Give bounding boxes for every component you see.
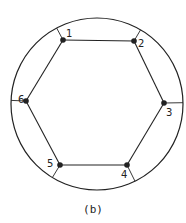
vertex-dot-2 — [131, 38, 137, 44]
vertex-dot-3 — [161, 100, 167, 106]
radial-ticks — [11, 28, 183, 181]
vertex-dot-4 — [124, 162, 130, 168]
edge-3-4 — [127, 103, 164, 165]
vertex-label-6: 6 — [18, 94, 24, 105]
edge-2-3 — [134, 41, 164, 103]
vertex-label-2: 2 — [138, 38, 144, 49]
vertex-dot-1 — [60, 37, 66, 43]
vertex-label-5: 5 — [47, 158, 53, 169]
hexagon-edges — [26, 40, 164, 165]
outer-circle — [11, 18, 183, 190]
edge-5-6 — [26, 101, 60, 165]
edge-6-1 — [26, 40, 63, 101]
figure-caption: (b) — [83, 203, 103, 216]
vertex-label-4: 4 — [121, 169, 127, 180]
vertex-label-3: 3 — [166, 107, 172, 118]
edge-1-2 — [63, 40, 134, 41]
vertex-labels: 123456 — [18, 28, 172, 180]
vertex-label-1: 1 — [66, 28, 72, 39]
hexagon-vertices — [23, 37, 167, 168]
hexagon-in-circle-diagram: 123456 (b) — [0, 0, 186, 223]
vertex-dot-5 — [57, 162, 63, 168]
